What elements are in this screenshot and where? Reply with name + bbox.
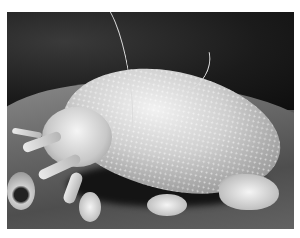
debris — [219, 174, 279, 210]
debris — [147, 194, 187, 216]
debris — [79, 192, 101, 222]
debris — [7, 172, 35, 210]
mite-micrograph — [7, 12, 294, 229]
